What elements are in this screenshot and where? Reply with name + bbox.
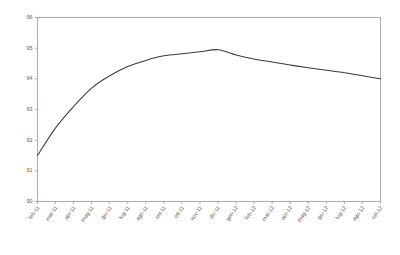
y-tick-label: 93 — [27, 106, 33, 112]
x-tick-label: lug-12 — [334, 205, 348, 221]
x-tick-label: lug-11 — [117, 205, 130, 220]
y-axis-tick-labels: 90919293949596 — [27, 14, 33, 204]
x-tick-label: mag-12 — [296, 205, 311, 223]
x-tick-label: giu-11 — [99, 205, 112, 220]
x-tick-label: dic-11 — [208, 205, 221, 220]
y-tick-label: 91 — [27, 167, 33, 173]
x-tick-label: feb-12 — [243, 205, 257, 221]
data-series-line — [38, 50, 381, 156]
x-tick-label: set-12 — [370, 205, 384, 221]
x-tick-label: set-11 — [154, 205, 167, 220]
line-chart-figure: 90919293949596 feb-11mar-11apr-11mag-11g… — [0, 0, 400, 255]
x-tick-label: mar-12 — [260, 205, 275, 222]
y-tick-label: 94 — [27, 75, 33, 81]
y-tick-label: 96 — [27, 14, 33, 20]
y-tick-label: 95 — [27, 45, 33, 51]
x-tick-label: nov-11 — [189, 205, 203, 222]
x-tick-label: gen-12 — [225, 205, 240, 222]
x-tick-label: giu-12 — [316, 205, 330, 221]
y-tick-label: 92 — [27, 137, 33, 143]
plot-area-frame — [38, 18, 381, 202]
x-tick-label: feb-11 — [27, 205, 40, 221]
chart-canvas: 90919293949596 feb-11mar-11apr-11mag-11g… — [0, 0, 400, 255]
x-tick-label: ago-12 — [351, 205, 366, 222]
x-tick-label: apr-11 — [63, 205, 77, 221]
x-tick-label: apr-12 — [279, 205, 293, 221]
x-axis-tick-labels: feb-11mar-11apr-11mag-11giu-11lug-11ago-… — [27, 205, 383, 223]
x-tick-label: mar-11 — [44, 205, 58, 222]
x-tick-label: ago-11 — [135, 205, 149, 222]
x-tick-label: mag-11 — [80, 205, 95, 223]
x-tick-label: ott-11 — [172, 205, 185, 219]
y-tick-label: 90 — [27, 198, 33, 204]
